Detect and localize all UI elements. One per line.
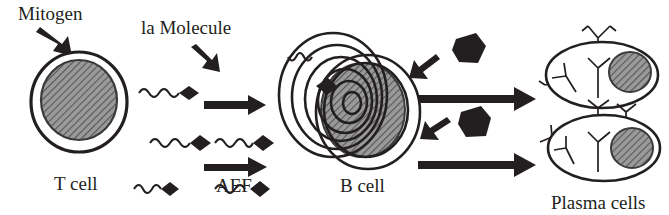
label-mitogen: Mitogen (18, 3, 83, 24)
label-b-cell: B cell (340, 175, 385, 196)
t-cell-group (31, 52, 127, 152)
immunology-pathway-diagram: Mitogen T cell la Molecule (0, 0, 669, 215)
t-cell-nucleus (41, 60, 117, 140)
diagram-canvas: Mitogen T cell la Molecule (0, 0, 669, 215)
label-ia-molecule: la Molecule (141, 17, 231, 38)
label-plasma-cells: Plasma cells (551, 192, 645, 213)
label-t-cell: T cell (54, 173, 97, 194)
label-aef: AEF (216, 175, 252, 196)
plasma-cell-lower-nucleus (611, 128, 653, 168)
plasma-cell-upper-nucleus (609, 52, 651, 92)
